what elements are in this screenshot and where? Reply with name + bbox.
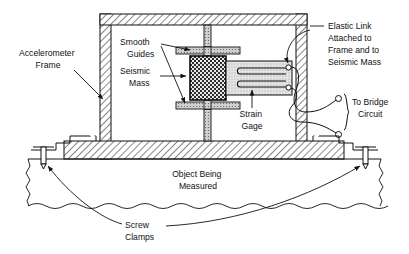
screw-shank-right xyxy=(363,147,368,164)
seismic-mass-block xyxy=(190,56,226,100)
label-to-bridge-circuit-line-1: To Bridge xyxy=(352,97,389,107)
label-screw-clamps-line-1: Screw xyxy=(125,220,150,230)
label-smooth-guides-line-2: Guides xyxy=(127,49,154,59)
label-screw-clamps-line-2: Clamps xyxy=(125,232,154,242)
label-strain-gage-line-1: Strain xyxy=(240,109,263,119)
label-accelerometer-frame-line-1: Accelerometer xyxy=(19,48,75,58)
elastic-link-body xyxy=(226,61,292,95)
diagram-canvas: Accelerometer Frame Smooth Guides Seismi… xyxy=(0,0,409,254)
label-elastic-link-line-3: Frame and to xyxy=(328,45,379,55)
label-elastic-link-line-1: Elastic Link xyxy=(328,21,372,31)
label-smooth-guides-line-1: Smooth xyxy=(120,37,150,47)
shaft-stub-upper xyxy=(204,47,211,56)
gage-tab-lower xyxy=(286,85,291,90)
label-elastic-link-line-2: Attached to xyxy=(328,33,372,43)
label-to-bridge-circuit-line-2: Circuit xyxy=(358,109,383,119)
label-strain-gage-line-2: Gage xyxy=(241,121,262,131)
gage-tab-upper xyxy=(286,65,291,70)
label-seismic-mass-line-2: Mass xyxy=(129,78,150,88)
screw-shank-left xyxy=(41,147,46,164)
guide-shaft-lower xyxy=(204,109,211,141)
frame-top-wall xyxy=(100,14,307,25)
frame-left-wall xyxy=(100,14,111,159)
label-elastic-link-line-4: Seismic Mass xyxy=(328,57,381,67)
label-seismic-mass-line-1: Seismic xyxy=(120,66,151,76)
label-accelerometer-frame-line-2: Frame xyxy=(36,60,61,70)
label-object-being-measured-line-2: Measured xyxy=(179,181,217,191)
elastic-link-assembly xyxy=(226,61,292,95)
accelerometer-diagram: Accelerometer Frame Smooth Guides Seismi… xyxy=(0,0,409,254)
guide-shaft-upper xyxy=(204,25,211,47)
frame-base-flange xyxy=(64,141,344,159)
terminal-upper xyxy=(336,96,342,102)
shaft-stub-lower xyxy=(204,100,211,109)
label-object-being-measured-line-1: Object Being xyxy=(172,169,221,179)
